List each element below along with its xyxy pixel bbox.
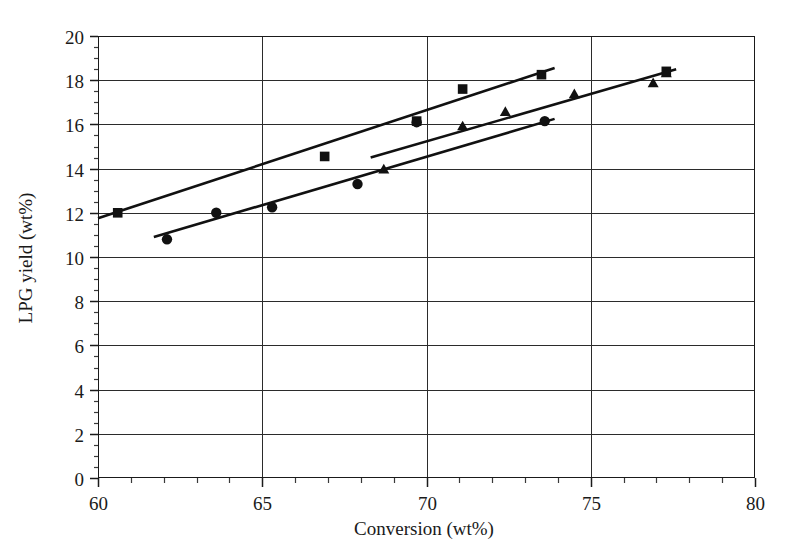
- x-axis-title: Conversion (wt%): [354, 518, 494, 540]
- x-tick-label: 60: [89, 493, 108, 514]
- plot-background: [0, 0, 793, 556]
- data-point-circle: [352, 179, 362, 189]
- data-point-circle: [267, 202, 277, 212]
- x-tick-label: 80: [746, 493, 765, 514]
- y-tick-label: 4: [75, 381, 85, 402]
- data-point-circle: [162, 234, 172, 244]
- y-tick-label: 16: [65, 115, 84, 136]
- y-tick-label: 10: [65, 248, 84, 269]
- y-tick-label: 12: [65, 204, 84, 225]
- y-tick-label: 8: [75, 292, 85, 313]
- data-point-square: [320, 152, 330, 162]
- y-tick-label: 14: [65, 160, 85, 181]
- data-point-square: [458, 84, 468, 94]
- chart-figure: 024681012141618206065707580 Conversion (…: [0, 0, 793, 556]
- data-point-circle: [211, 208, 221, 218]
- y-tick-label: 18: [65, 71, 84, 92]
- data-point-square: [537, 70, 547, 80]
- data-point-square: [113, 208, 123, 218]
- y-tick-label: 2: [75, 425, 85, 446]
- x-tick-label: 70: [418, 493, 437, 514]
- y-tick-label: 20: [65, 27, 84, 48]
- scatter-plot: 024681012141618206065707580 Conversion (…: [0, 0, 793, 556]
- y-tick-label: 6: [75, 336, 85, 357]
- x-tick-label: 75: [582, 493, 601, 514]
- data-point-circle: [540, 116, 550, 126]
- x-tick-label: 65: [253, 493, 272, 514]
- data-point-circle: [411, 117, 421, 127]
- y-tick-label: 0: [75, 469, 85, 490]
- y-axis-title: LPG yield (wt%): [15, 193, 37, 324]
